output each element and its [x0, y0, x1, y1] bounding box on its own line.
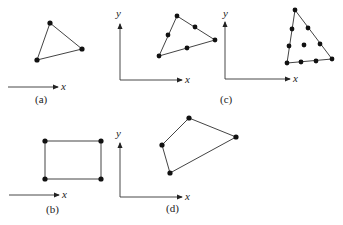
- x-axis-label: x: [184, 73, 190, 85]
- element-types-figure: x (a) y x y x: [0, 0, 343, 225]
- x-axis-label: x: [61, 188, 67, 200]
- y-axis-label: y: [222, 7, 228, 19]
- element-nodes: [159, 115, 238, 175]
- y-axis-label: y: [115, 127, 121, 139]
- quadrilateral-element: [162, 118, 236, 173]
- triangle-element: [37, 23, 82, 60]
- caption-a: (a): [35, 93, 48, 106]
- x-axis-label: x: [60, 80, 66, 92]
- panel-c-cubic: y x (c): [220, 7, 334, 106]
- panel-a: x (a): [8, 20, 85, 106]
- rectangle-element: [45, 141, 101, 179]
- caption-d: (d): [166, 202, 179, 215]
- x-axis-label: x: [292, 72, 298, 84]
- caption-c: (c): [220, 93, 233, 106]
- figure-canvas: x (a) y x y x: [0, 0, 343, 225]
- x-axis-label: x: [184, 190, 190, 202]
- panel-c-quadratic: y x: [115, 7, 217, 85]
- y-axis-label: y: [115, 7, 121, 19]
- panel-b: x (b): [9, 138, 104, 216]
- cubic-triangle-element: [287, 10, 332, 63]
- element-nodes: [285, 8, 335, 66]
- caption-b: (b): [46, 203, 59, 216]
- panel-d: y x (d): [115, 115, 239, 215]
- element-nodes: [42, 138, 103, 181]
- element-nodes: [34, 20, 84, 62]
